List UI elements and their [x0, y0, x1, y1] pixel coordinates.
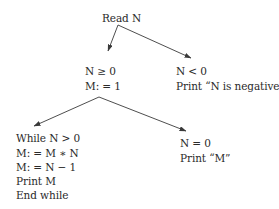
node-zero-line-1: N = 0 — [180, 137, 211, 149]
node-read-n-line-1: Read N — [102, 12, 141, 24]
node-neg-line-1: N < 0 — [176, 65, 207, 77]
node-loop-decrement: M: = N − 1 — [16, 161, 76, 173]
node-loop-while: While N > 0 — [16, 132, 80, 144]
node-n-nonnegative-condition: N ≥ 0 — [85, 65, 116, 77]
node-n-zero-print: Print “M” — [180, 152, 230, 164]
edge-nonneg-to-zero-arrow — [99, 97, 186, 131]
node-loop-line-3: M: = N − 1 — [16, 161, 76, 173]
flowchart-diagram: Read N N ≥ 0 M: = 1 N < 0 Print “N is ne… — [0, 0, 279, 209]
node-neg-line-2: Print “N is negative” — [176, 80, 279, 92]
node-loop-end: End while — [16, 189, 68, 201]
node-n-negative-condition: N < 0 — [176, 65, 207, 77]
node-loop-print: Print M — [16, 175, 56, 187]
node-loop-line-5: End while — [16, 189, 68, 201]
edge-nonneg-to-loop-arrow — [34, 97, 99, 126]
node-n-nonnegative-assign: M: = 1 — [85, 80, 121, 92]
node-zero-line-2: Print “M” — [180, 152, 230, 164]
edge-root-to-neg-arrow — [118, 25, 191, 58]
node-loop-line-4: Print M — [16, 175, 56, 187]
node-nonneg-line-2: M: = 1 — [85, 80, 121, 92]
node-read-n: Read N — [102, 12, 141, 24]
node-n-zero-condition: N = 0 — [180, 137, 211, 149]
edge-root-to-nonneg-arrow — [108, 25, 118, 51]
node-loop-multiply: M: = M ∗ N — [16, 147, 79, 159]
node-loop-line-1: While N > 0 — [16, 132, 80, 144]
node-nonneg-line-1: N ≥ 0 — [85, 65, 116, 77]
node-n-negative-print: Print “N is negative” — [176, 80, 279, 92]
node-loop-line-2: M: = M ∗ N — [16, 147, 79, 159]
